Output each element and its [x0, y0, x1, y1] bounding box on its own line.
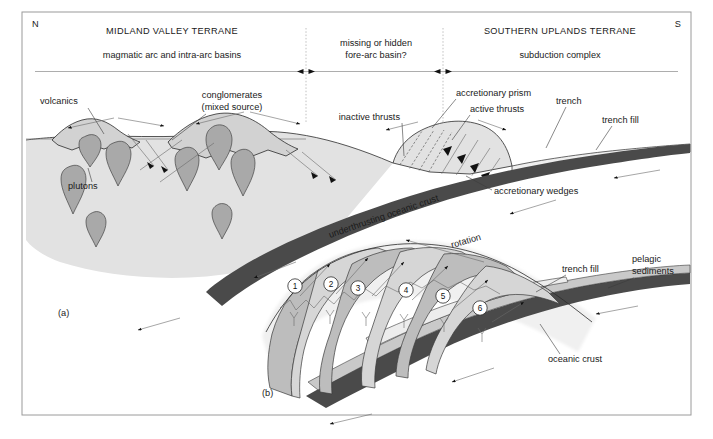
label-active-thrusts: active thrusts	[470, 104, 525, 114]
label-accretionary-wedges: accretionary wedges	[494, 186, 579, 196]
terrane-midland-subtitle: magmatic arc and intra-arc basins	[103, 50, 242, 60]
label-conglomerates-line2: (mixed source)	[202, 102, 263, 112]
wedge-number: 2	[324, 277, 338, 291]
wedge-number: 6	[473, 301, 487, 315]
label-trench-fill-a: trench fill	[602, 115, 639, 125]
svg-text:6: 6	[478, 304, 483, 313]
label-trench-fill-b: trench fill	[562, 264, 599, 274]
cross-section-diagram: N S MIDLAND VALLEY TERRANE magmatic arc …	[0, 0, 713, 439]
wedge-number: 3	[351, 281, 365, 295]
label-conglomerates-line1: conglomerates	[202, 90, 263, 100]
label-pelagic-line1: pelagic	[632, 254, 662, 264]
figure-canvas: N S MIDLAND VALLEY TERRANE magmatic arc …	[0, 0, 713, 439]
label-volcanics: volcanics	[40, 96, 78, 106]
terrane-midland-title: MIDLAND VALLEY TERRANE	[106, 26, 238, 36]
orientation-south-label: S	[675, 19, 681, 29]
forearc-gap-line1: missing or hidden	[340, 38, 412, 48]
wedge-number: 5	[436, 289, 450, 303]
label-rotation: rotation	[450, 232, 482, 250]
panel-b: 1 2 3 4 5 6 rotation trench fill pelagic…	[262, 232, 690, 424]
leader-trench-fill-a	[596, 126, 612, 150]
svg-text:4: 4	[404, 286, 409, 295]
label-inactive-thrusts: inactive thrusts	[339, 112, 401, 122]
label-trench: trench	[556, 96, 582, 106]
wedge-number: 1	[288, 279, 302, 293]
label-accretionary-prism: accretionary prism	[456, 88, 531, 98]
leader-trench	[546, 107, 566, 148]
svg-text:3: 3	[356, 284, 361, 293]
panel-a-label: (a)	[58, 308, 69, 318]
terrane-southern-title: SOUTHERN UPLANDS TERRANE	[484, 26, 636, 36]
wedge-number: 4	[399, 283, 413, 297]
label-oceanic-crust: oceanic crust	[548, 354, 603, 364]
label-pelagic-line2: sediments	[632, 266, 674, 276]
orientation-north-label: N	[32, 19, 39, 29]
terrane-southern-subtitle: subduction complex	[519, 50, 601, 60]
svg-text:2: 2	[329, 280, 334, 289]
label-plutons: plutons	[68, 181, 98, 191]
svg-text:1: 1	[293, 282, 298, 291]
svg-text:5: 5	[441, 292, 446, 301]
panel-b-label: (b)	[262, 388, 273, 398]
forearc-gap-line2: fore-arc basin?	[345, 50, 406, 60]
